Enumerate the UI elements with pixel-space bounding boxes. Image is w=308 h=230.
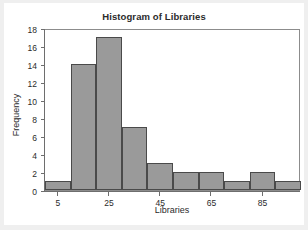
y-tick: 4: [41, 155, 45, 156]
x-tick: 5: [57, 192, 58, 196]
x-tick: 45: [159, 192, 160, 196]
y-tick-label: 2: [32, 169, 37, 179]
y-tick: 2: [41, 173, 45, 174]
x-tick: 85: [262, 192, 263, 196]
chart-figure: Histogram of Libraries 024681012141618 5…: [4, 3, 304, 225]
y-tick-label: 6: [32, 133, 37, 143]
histogram-bar: [71, 64, 97, 190]
y-tick: 14: [41, 65, 45, 66]
y-tick-label: 10: [28, 97, 37, 107]
y-tick: 16: [41, 47, 45, 48]
histogram-bar: [224, 181, 250, 190]
x-axis-label: Libraries: [44, 205, 300, 215]
x-tick: 65: [210, 192, 211, 196]
y-tick: 12: [41, 83, 45, 84]
y-tick-label: 16: [28, 43, 37, 53]
histogram-bar: [96, 37, 122, 190]
histogram-bar: [199, 172, 225, 190]
y-tick-label: 18: [28, 25, 37, 35]
histogram-bar: [45, 181, 71, 190]
histogram-bar: [173, 172, 199, 190]
chart-title: Histogram of Libraries: [4, 11, 304, 22]
plot-panel: [44, 29, 300, 191]
y-tick: 10: [41, 101, 45, 102]
y-tick-label: 14: [28, 61, 37, 71]
histogram-bar: [122, 127, 148, 190]
x-tick: 25: [108, 192, 109, 196]
bars-container: [45, 30, 299, 190]
histogram-bar: [250, 172, 276, 190]
y-tick: 6: [41, 137, 45, 138]
histogram-bar: [275, 181, 301, 190]
y-tick: 18: [41, 29, 45, 30]
histogram-bar: [147, 163, 173, 190]
y-tick-label: 8: [32, 115, 37, 125]
y-tick: 8: [41, 119, 45, 120]
y-tick-label: 12: [28, 79, 37, 89]
y-axis-label: Frequency: [11, 75, 21, 155]
x-axis: 525456585: [44, 191, 300, 192]
y-tick-label: 4: [32, 151, 37, 161]
y-tick-label: 0: [32, 187, 37, 197]
y-axis: 024681012141618: [44, 29, 45, 191]
